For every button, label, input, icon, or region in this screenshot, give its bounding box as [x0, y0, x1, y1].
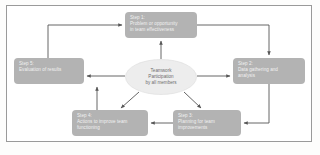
- node-step5-line1: Evaluation of results: [19, 67, 80, 73]
- node-step1[interactable]: Step 1: Problem or opportunity in team e…: [125, 12, 197, 38]
- node-step2[interactable]: Step 2: Data gathering and analysis: [233, 58, 305, 84]
- connector-step1-to-step2: [197, 25, 269, 55]
- connector-step2-to-step3: [244, 84, 269, 123]
- node-step2-line2: analysis: [238, 73, 301, 79]
- node-step5[interactable]: Step 5: Evaluation of results: [14, 58, 84, 84]
- node-step4-line2: functioning: [77, 125, 144, 131]
- node-step4[interactable]: Step 4: Actions to improve team function…: [72, 110, 148, 136]
- figure-root: Step 1: Problem or opportunity in team e…: [0, 0, 320, 155]
- node-step3-line2: improvements: [178, 125, 237, 131]
- center-ellipse-shape: [125, 59, 197, 95]
- connector-step5-to-step1: [48, 25, 122, 58]
- node-step1-line2: in team effectiveness: [130, 27, 193, 33]
- node-step3[interactable]: Step 3: Planning for team improvements: [173, 110, 241, 136]
